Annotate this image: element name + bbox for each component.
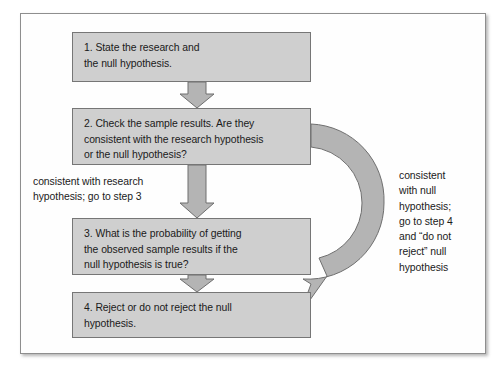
flowchart-step-2: 2. Check the sample results. Are they co… [72,108,311,165]
arrow-1-to-2-icon [180,82,214,108]
flowchart-step-3: 3. What is the probability of getting th… [72,218,311,275]
flowchart-step-4: 4. Reject or do not reject the null hypo… [72,292,311,338]
branch-label-left: consistent with research hypothesis; go … [33,174,218,205]
flowchart-step-1: 1. State the research and the null hypot… [72,32,311,82]
arrow-2-to-4-curved-icon [300,124,384,314]
branch-label-right: consistent with null hypothesis; go to s… [399,168,479,275]
arrow-3-to-4-icon [180,275,214,292]
